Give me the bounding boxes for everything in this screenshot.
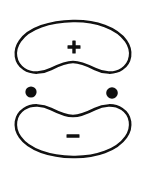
minus-sign [67, 134, 80, 138]
diagram-canvas [0, 0, 147, 178]
left-nucleus-dot [25, 86, 36, 97]
lower-lobe-outline [16, 105, 130, 157]
right-nucleus-dot [106, 87, 118, 99]
orbital-lobe-figure: + − Two-lobe charge distribution diagram [0, 0, 147, 178]
minus-sign-bar [67, 134, 80, 138]
plus-sign-vertical-bar [72, 41, 75, 54]
